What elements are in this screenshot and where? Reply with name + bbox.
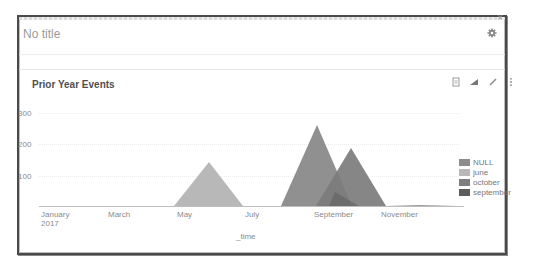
legend-label: june (473, 168, 488, 177)
legend: NULL june october september (459, 157, 511, 197)
legend-swatch (459, 179, 470, 186)
more-options-icon[interactable] (506, 77, 516, 87)
legend-swatch (459, 169, 470, 176)
x-axis-label: March (108, 210, 130, 219)
dashboard-panel: × No title Prior Year Events 300 200 100 (17, 15, 507, 255)
search-report-icon[interactable] (451, 77, 461, 87)
legend-label: october (473, 178, 500, 187)
legend-swatch (459, 159, 470, 166)
gear-icon[interactable] (487, 28, 497, 38)
x-axis-label: January 2017 (41, 210, 69, 228)
series-tail (386, 205, 459, 206)
x-axis-label: May (177, 210, 192, 219)
x-axis-title: _time (236, 232, 256, 241)
area-chart[interactable] (39, 102, 464, 208)
visualization-icon[interactable] (469, 77, 479, 87)
divider (19, 54, 505, 55)
y-axis-label: 200 (18, 140, 31, 149)
divider (19, 69, 505, 70)
legend-item-june[interactable]: june (459, 167, 511, 177)
close-icon[interactable]: × (497, 13, 503, 23)
series-june (174, 162, 243, 206)
panel-drag-handle[interactable] (19, 17, 505, 20)
x-axis-label: September (314, 210, 353, 219)
edit-pencil-icon[interactable] (488, 77, 498, 87)
dashboard-title[interactable]: No title (23, 27, 60, 41)
legend-item-october[interactable]: october (459, 177, 511, 187)
legend-item-null[interactable]: NULL (459, 157, 511, 167)
legend-label: NULL (473, 158, 493, 167)
y-axis-label: 300 (18, 109, 31, 118)
panel-title: Prior Year Events (32, 79, 115, 90)
y-axis-label: 100 (18, 172, 31, 181)
legend-swatch (459, 189, 470, 196)
legend-label: september (473, 188, 511, 197)
x-axis-label: November (381, 210, 418, 219)
x-axis-label: July (245, 210, 259, 219)
legend-item-september[interactable]: september (459, 187, 511, 197)
